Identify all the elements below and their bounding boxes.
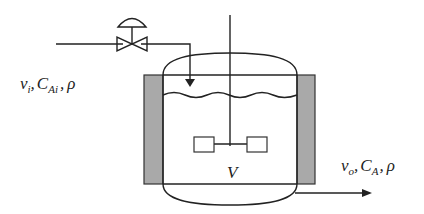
volume-label: V [227,163,240,182]
cstr-diagram: vi,CAi,ρ vo,CA,ρ V [0,0,424,214]
inlet-arrow-icon [185,79,195,87]
jacket-left [144,75,163,184]
outlet-arrow-icon [362,189,372,197]
inlet-label: vi,CAi,ρ [20,74,75,95]
tank-bottom-head [163,184,297,205]
outlet-label: vo,CA,ρ [341,156,395,177]
agitator-icon [194,15,267,152]
control-valve-icon [117,19,147,52]
jacket-right [297,75,315,184]
